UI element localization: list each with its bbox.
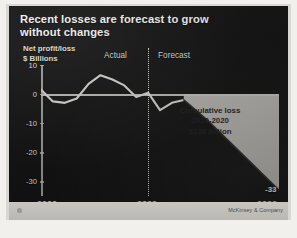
- y-axis-tick: [40, 152, 44, 153]
- chart-figure: Recent losses are forecast to grow witho…: [0, 0, 297, 238]
- actual-loss-line: [41, 75, 184, 110]
- endpoint-value-label: -33: [265, 185, 277, 194]
- chart-title-line2: without changes: [20, 26, 110, 38]
- y-axis-tick-label: -20: [26, 148, 37, 157]
- footer-dot-icon: [17, 208, 22, 213]
- y-axis-title-line1: Net profit/loss: [23, 44, 75, 53]
- y-axis-tick: [40, 181, 44, 182]
- period-label-forecast: Forecast: [158, 51, 190, 60]
- y-axis-tick: [40, 65, 44, 66]
- y-axis-tick-label: -30: [26, 177, 37, 186]
- plot-area: Actual Forecast Cumulative loss 2010-202…: [41, 65, 279, 196]
- annotation-line3: $238 billion: [180, 127, 241, 137]
- source-credit: McKinsey & Company: [228, 207, 283, 213]
- chart-title-line1: Recent losses are forecast to grow: [20, 13, 209, 25]
- forecast-divider-line: [148, 48, 149, 196]
- chart-panel: Recent losses are forecast to grow witho…: [9, 6, 288, 202]
- y-axis-tick-label: 0: [33, 90, 37, 99]
- y-axis-tick: [40, 123, 44, 124]
- figure-footer: McKinsey & Company: [9, 202, 288, 220]
- annotation-line1: Cumulative loss: [180, 106, 241, 116]
- period-label-actual: Actual: [104, 51, 127, 60]
- y-axis-tick: [40, 94, 44, 95]
- y-axis-tick-label: -10: [26, 119, 37, 128]
- y-axis-tick-label: 10: [29, 61, 37, 70]
- cumulative-loss-annotation: Cumulative loss 2010-2020 $238 billion: [180, 106, 241, 137]
- chart-plot-svg: [41, 65, 279, 196]
- annotation-line2: 2010-2020: [180, 116, 241, 126]
